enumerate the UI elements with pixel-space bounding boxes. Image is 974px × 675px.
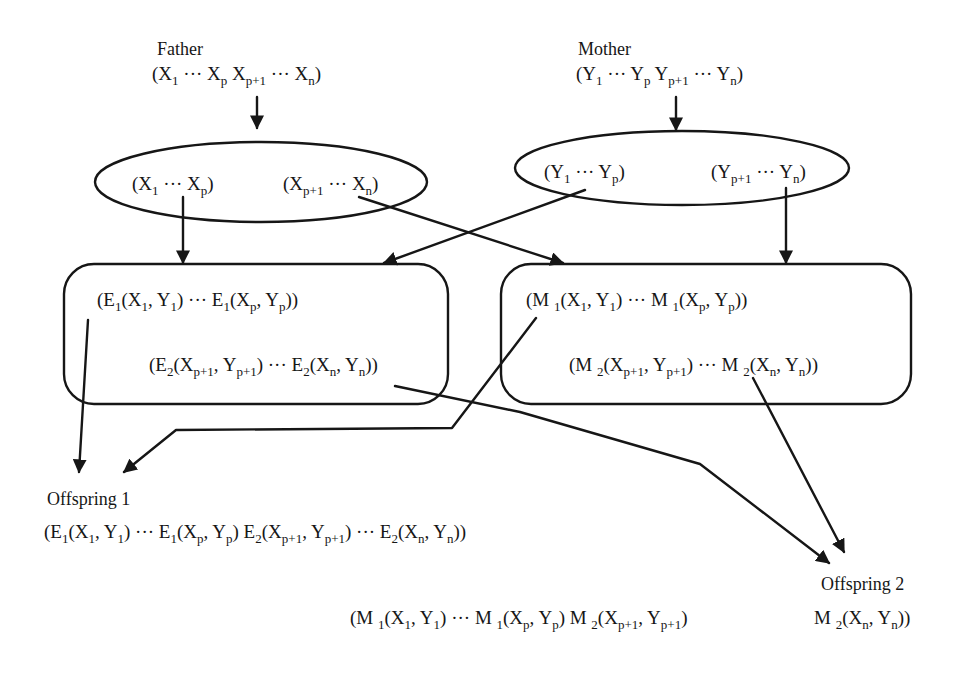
m-box-line2: (M 2(Xp+1, Yp+1) ··· M 2(Xn, Yn)): [569, 355, 818, 374]
father-segment-right: (Xp+1 ··· Xn): [283, 174, 378, 193]
offspring2-label: Offspring 2: [821, 575, 904, 593]
arrow-e1-to-offspring1: [79, 320, 88, 472]
mother-chromosome: (Y1 ··· Yp Yp+1 ··· Yn): [576, 64, 743, 83]
offspring1-chromosome: (E1(X1, Y1) ··· E1(Xp, Yp) E2(Xp+1, Yp+1…: [44, 522, 466, 541]
offspring1-label: Offspring 1: [47, 490, 130, 508]
father-label: Father: [157, 40, 203, 58]
arrow-x-right-to-m: [359, 197, 563, 263]
father-chromosome: (X1 ··· Xp Xp+1 ··· Xn): [152, 64, 321, 83]
mother-label: Mother: [578, 40, 631, 58]
offspring2-chromosome-part2: M 2(Xn, Yn)): [814, 608, 910, 627]
crossover-diagram: Father (X1 ··· Xp Xp+1 ··· Xn) Mother (Y…: [0, 0, 974, 675]
e-box-line1: (E1(X1, Y1) ··· E1(Xp, Yp)): [97, 290, 298, 309]
mother-segment-left: (Y1 ··· Yp): [544, 162, 625, 181]
arrow-m1-to-offspring1: [124, 318, 536, 472]
e-box-line2: (E2(Xp+1, Yp+1) ··· E2(Xn, Yn)): [149, 355, 378, 374]
father-segment-left: (X1 ··· Xp): [132, 174, 214, 193]
offspring2-chromosome-part1: (M 1(X1, Y1) ··· M 1(Xp, Yp) M 2(Xp+1, Y…: [350, 608, 687, 627]
operator-box-e: [64, 264, 448, 404]
arrow-y-left-to-e: [384, 190, 585, 263]
mother-segment-right: (Yp+1 ··· Yn): [711, 162, 806, 181]
m-box-line1: (M 1(X1, Y1) ··· M 1(Xp, Yp)): [526, 290, 747, 309]
operator-box-m: [501, 264, 911, 404]
